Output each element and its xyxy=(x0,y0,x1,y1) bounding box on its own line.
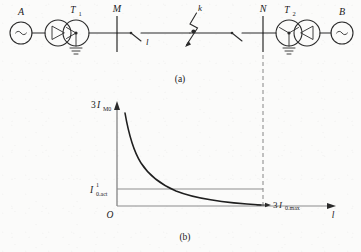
breaker2-blade xyxy=(232,33,242,41)
y-axis-label-subscript: M0 xyxy=(103,106,111,112)
transformer-t1-subscript: 1 xyxy=(78,10,81,17)
y-axis xyxy=(114,101,120,206)
t2-delta-winding-icon xyxy=(301,27,313,40)
figure-svg: A T 1 xyxy=(0,0,361,252)
generator-a: A xyxy=(10,6,32,44)
transformer-t1-label: T xyxy=(70,5,76,15)
circuit-breaker-2 xyxy=(231,32,242,41)
origin-label: O xyxy=(107,210,114,220)
breaker1-blade xyxy=(131,33,141,41)
endpoint-label-subscript: 0.max xyxy=(285,205,300,211)
y-axis-label: 3 I M0 xyxy=(91,100,111,112)
fault-lightning-icon xyxy=(187,13,198,45)
setting-label-subscript: 0.act xyxy=(96,191,108,197)
panel-a-caption: (a) xyxy=(175,74,186,85)
delta-winding-icon xyxy=(52,27,64,40)
transformer-t1: T 1 xyxy=(45,5,89,54)
t2-wye-winding-icon xyxy=(280,28,299,47)
y-axis-arrowhead xyxy=(114,101,120,110)
setting-label-superscript: 1 xyxy=(96,182,99,188)
generator-a-label: A xyxy=(17,6,25,17)
setting-threshold-label: I 1 0.act xyxy=(89,182,108,197)
transmission-line-label: l xyxy=(146,37,149,47)
figure-container: A T 1 xyxy=(0,0,361,252)
circuit-breaker-1 xyxy=(130,32,141,41)
t2-delta-circle xyxy=(294,20,320,46)
endpoint-label: 3 I 0.max xyxy=(273,200,300,211)
x-axis xyxy=(117,203,336,209)
fault-arrowhead xyxy=(185,41,191,47)
t1-ground-icon xyxy=(70,48,82,54)
generator-b: B xyxy=(331,6,353,44)
bus-m: M xyxy=(112,3,122,52)
fault-k: k xyxy=(185,3,203,47)
y-axis-label-variable: I xyxy=(96,100,101,110)
ac-source-icon xyxy=(16,31,27,34)
bus-n-label: N xyxy=(259,3,268,14)
transformer-t2-label: T xyxy=(284,5,290,15)
current-characteristic-curve xyxy=(125,113,261,205)
x-axis-label: l xyxy=(332,210,335,220)
bus-m-label: M xyxy=(112,3,122,14)
fault-label: k xyxy=(198,3,203,13)
endpoint-label-variable: I xyxy=(278,200,283,210)
endpoint-arrowhead xyxy=(265,203,271,208)
t2-ground-icon xyxy=(283,48,295,54)
panel-b-chart: 3 I M0 l O I 1 0.act xyxy=(89,100,336,243)
panel-b-caption: (b) xyxy=(179,232,190,243)
panel-a-diagram: A T 1 xyxy=(10,3,353,85)
endpoint-label-prefix: 3 xyxy=(273,200,278,210)
ac-source-icon-b xyxy=(337,31,348,34)
endpoint-marker xyxy=(257,203,271,208)
bus-n: N xyxy=(259,3,268,52)
setting-label-variable: I xyxy=(89,185,94,195)
x-axis-arrowhead xyxy=(327,203,336,209)
transformer-t2-subscript: 2 xyxy=(292,10,295,17)
transformer-t2: T 2 xyxy=(276,5,320,54)
y-axis-label-prefix: 3 xyxy=(91,100,96,110)
generator-b-label: B xyxy=(339,6,345,17)
